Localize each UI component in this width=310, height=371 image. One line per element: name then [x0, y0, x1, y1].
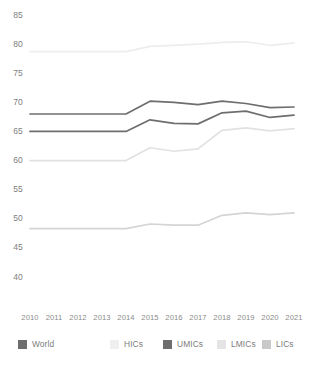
legend-item[interactable]: HICs	[110, 337, 143, 351]
legend-label: World	[32, 339, 54, 349]
x-axis-tick-label: 2010	[17, 313, 43, 322]
legend-swatch-icon	[217, 340, 226, 349]
chart-legend: WorldHICsUMICsLMICsLICs	[0, 335, 310, 357]
series-line	[30, 128, 294, 161]
x-axis-tick-label: 2021	[281, 313, 307, 322]
legend-swatch-icon	[110, 340, 119, 349]
x-axis-tick-label: 2019	[233, 313, 259, 322]
legend-label: LMICs	[231, 339, 256, 349]
x-axis-tick-label: 2017	[185, 313, 211, 322]
legend-item[interactable]: World	[18, 337, 54, 351]
x-axis-tick-label: 2015	[137, 313, 163, 322]
series-line	[30, 42, 294, 52]
x-axis-tick-label: 2020	[257, 313, 283, 322]
legend-label: HICs	[124, 339, 143, 349]
legend-item[interactable]: LICs	[262, 337, 294, 351]
legend-label: LICs	[276, 339, 294, 349]
x-axis-tick-label: 2013	[89, 313, 115, 322]
x-axis-tick-label: 2012	[65, 313, 91, 322]
line-chart: 85807570656055504540 2010201120122013201…	[0, 0, 310, 371]
x-axis-tick-label: 2014	[113, 313, 139, 322]
legend-label: UMICs	[177, 339, 203, 349]
x-axis-tick-label: 2011	[41, 313, 67, 322]
x-axis-tick-label: 2016	[161, 313, 187, 322]
legend-swatch-icon	[18, 340, 27, 349]
legend-item[interactable]: UMICs	[163, 337, 203, 351]
series-line	[30, 101, 294, 114]
x-axis-tick-label: 2018	[209, 313, 235, 322]
legend-swatch-icon	[163, 340, 172, 349]
legend-item[interactable]: LMICs	[217, 337, 256, 351]
series-line	[30, 213, 294, 229]
legend-swatch-icon	[262, 340, 271, 349]
